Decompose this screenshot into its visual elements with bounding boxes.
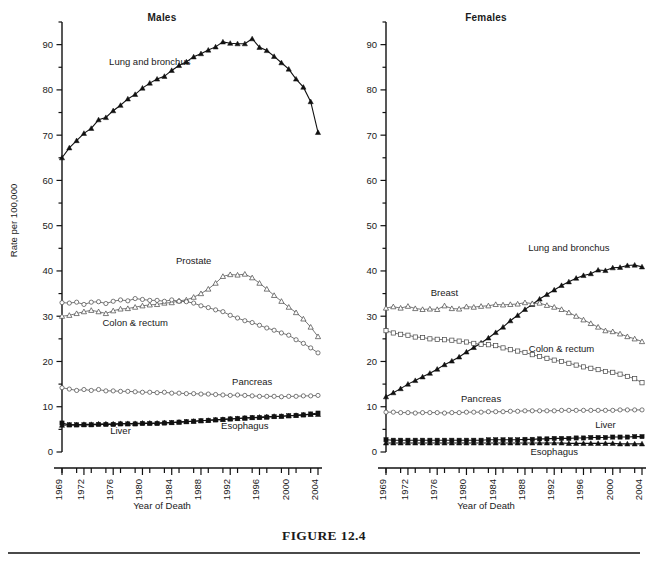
y-axis-tick-label: 80 [366,84,377,95]
data-point-marker [287,394,291,398]
data-point-marker [545,409,549,413]
data-point-marker [494,410,498,414]
y-axis-tick-label: 90 [42,39,53,50]
data-point-marker [82,302,86,306]
data-point-marker [67,301,71,305]
data-point-marker [391,410,395,414]
series-label-esophagus: Esophagus [221,420,269,431]
series-label-colon-rectum: Colon & rectum [529,343,595,354]
data-point-marker [405,304,410,309]
x-axis-tick-label: 1992 [221,479,232,500]
data-point-marker [89,308,94,313]
data-point-marker [464,340,468,344]
series-label-breast: Breast [431,287,459,298]
data-point-marker [272,328,276,332]
plot-area-females: 0102030405060708090196919721976198019841… [324,0,648,520]
data-point-marker [435,367,440,372]
data-point-marker [406,411,410,415]
y-axis-tick-label: 90 [366,39,377,50]
data-point-marker [250,275,255,280]
data-point-marker [162,390,166,394]
data-point-marker [501,346,505,350]
series-colon-rectum [60,296,320,355]
x-axis-tick-label: 1980 [457,479,468,500]
data-point-marker [625,374,629,378]
data-point-marker [398,386,403,391]
data-point-marker [633,408,637,412]
data-point-marker [316,351,320,355]
data-point-marker [242,272,247,277]
data-point-marker [133,296,137,300]
series-label-prostate: Prostate [176,255,211,266]
data-point-marker [618,435,622,439]
data-point-marker [75,300,79,304]
data-point-marker [472,341,476,345]
y-axis-tick-label: 40 [42,265,53,276]
data-point-marker [198,291,203,296]
data-point-marker [104,301,108,305]
data-point-marker [516,349,520,353]
data-point-marker [405,382,410,387]
data-point-marker [486,410,490,414]
data-point-marker [250,394,254,398]
data-point-marker [574,363,578,367]
data-point-marker [457,411,461,415]
data-point-marker [214,308,218,312]
data-point-marker [442,362,447,367]
data-point-marker [192,301,196,305]
data-point-marker [301,341,305,345]
data-point-marker [522,300,527,305]
data-point-marker [538,409,542,413]
data-point-marker [640,381,644,385]
series-label-esophagus: Esophagus [530,446,578,457]
data-point-marker [603,435,607,439]
data-point-marker [89,300,93,304]
data-point-marker [420,374,425,379]
data-point-marker [457,339,461,343]
data-point-marker [413,411,417,415]
data-point-marker [279,395,283,399]
x-axis-tick-label: 2000 [280,479,291,500]
y-axis-tick-label: 70 [42,130,53,141]
data-point-marker [596,324,601,329]
data-point-marker [82,387,86,391]
data-point-marker [96,387,100,391]
data-point-marker [198,51,203,56]
series-label-lung-and-bronchus: Lung and bronchus [528,242,610,253]
data-point-marker [243,319,247,323]
data-point-marker [574,408,578,412]
series-line [62,274,318,336]
data-point-marker [494,344,498,348]
data-point-marker [272,394,276,398]
data-point-marker [75,388,79,392]
x-axis-tick-label: 1996 [250,479,261,500]
data-point-marker [567,436,571,440]
y-axis-tick-label: 30 [42,311,53,322]
data-point-marker [640,435,644,439]
data-point-marker [544,292,549,297]
data-point-marker [155,391,159,395]
data-point-marker [140,390,144,394]
data-point-marker [96,300,100,304]
data-point-marker [581,436,585,440]
data-point-marker [126,389,130,393]
series-pancreas [384,408,644,415]
data-point-marker [257,281,262,286]
data-point-marker [221,393,225,397]
data-point-marker [566,310,571,315]
data-point-marker [486,343,490,347]
data-point-marker [309,346,313,350]
data-point-marker [301,394,305,398]
data-point-marker [442,303,447,308]
x-axis-tick-label: 1992 [545,479,556,500]
data-point-marker [308,99,313,104]
data-point-marker [538,354,542,358]
series-pancreas [60,386,320,399]
data-point-marker [566,279,571,284]
data-point-marker [406,333,410,337]
y-axis-tick-label: 30 [366,311,377,322]
x-axis-tick-label: 1976 [428,479,439,500]
data-point-marker [420,335,424,339]
figure-root: Males Rate per 100,000 01020304050607080… [0,0,648,569]
data-point-marker [309,394,313,398]
